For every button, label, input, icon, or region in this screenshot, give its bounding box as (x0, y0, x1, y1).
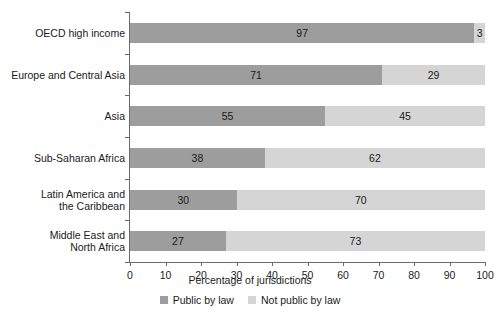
bar-row: 3862 (130, 148, 485, 168)
bar-segment: 97 (130, 23, 474, 43)
x-axis-tick (166, 262, 167, 266)
bar-segment: 71 (130, 65, 382, 85)
x-axis-tick (237, 262, 238, 266)
category-label: Asia (3, 110, 125, 122)
x-axis-tick (450, 262, 451, 266)
x-axis-tick (379, 262, 380, 266)
bar-segment: 55 (130, 106, 325, 126)
category-label: Latin America and the Caribbean (3, 188, 125, 212)
bar-segment: 3 (474, 23, 485, 43)
legend-swatch-icon (160, 296, 168, 304)
legend-label: Public by law (173, 294, 234, 306)
bar-value-label: 71 (130, 65, 382, 85)
bar-value-label: 27 (130, 231, 226, 251)
bar-value-label: 70 (237, 190, 486, 210)
bar-value-label: 55 (130, 106, 325, 126)
x-axis-tick (343, 262, 344, 266)
y-axis-line (129, 12, 130, 262)
bar-value-label: 97 (130, 23, 474, 43)
bar-row: 2773 (130, 231, 485, 251)
bar-value-label: 73 (226, 231, 485, 251)
bar-row: 7129 (130, 65, 485, 85)
bar-segment: 38 (130, 148, 265, 168)
category-label: Middle East and North Africa (3, 229, 125, 253)
chart-legend: Public by law Not public by law (0, 294, 500, 306)
bar-segment: 62 (265, 148, 485, 168)
category-label: Sub-Saharan Africa (3, 152, 125, 164)
y-axis-tick (125, 54, 129, 55)
bar-row: 3070 (130, 190, 485, 210)
plot-area: 0102030405060708090100973712955453862307… (130, 12, 485, 262)
stacked-bar-chart: 0102030405060708090100973712955453862307… (0, 0, 500, 317)
bar-row: 973 (130, 23, 485, 43)
bar-value-label: 30 (130, 190, 237, 210)
x-axis-title: Percentage of jurisdictions (0, 274, 500, 286)
bar-segment: 45 (325, 106, 485, 126)
bar-value-label: 29 (382, 65, 485, 85)
bar-segment: 29 (382, 65, 485, 85)
y-axis-tick (125, 179, 129, 180)
bar-value-label: 38 (130, 148, 265, 168)
bar-value-label: 45 (325, 106, 485, 126)
x-axis-tick (272, 262, 273, 266)
legend-swatch-icon (248, 296, 256, 304)
x-axis-tick (414, 262, 415, 266)
x-axis-tick (485, 262, 486, 266)
category-label: Europe and Central Asia (3, 69, 125, 81)
y-axis-tick (125, 220, 129, 221)
x-axis-tick (130, 262, 131, 266)
x-axis-tick (201, 262, 202, 266)
category-label: OECD high income (3, 27, 125, 39)
bar-segment: 30 (130, 190, 237, 210)
bar-value-label: 62 (265, 148, 485, 168)
legend-item-not-public-by-law: Not public by law (248, 294, 340, 306)
y-axis-tick (125, 95, 129, 96)
x-axis-tick (308, 262, 309, 266)
bar-value-label: 3 (474, 23, 485, 43)
legend-label: Not public by law (261, 294, 340, 306)
bar-segment: 70 (237, 190, 486, 210)
y-axis-tick (125, 137, 129, 138)
bar-row: 5545 (130, 106, 485, 126)
legend-item-public-by-law: Public by law (160, 294, 234, 306)
y-axis-tick (125, 262, 129, 263)
y-axis-tick (125, 12, 129, 13)
bar-segment: 27 (130, 231, 226, 251)
bar-segment: 73 (226, 231, 485, 251)
